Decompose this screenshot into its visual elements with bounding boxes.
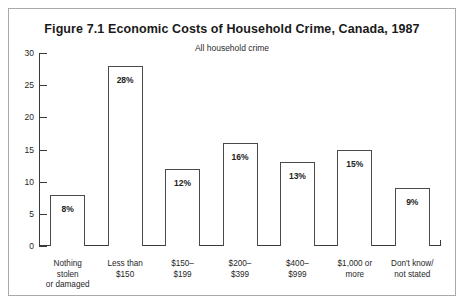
y-axis-tick-mark (39, 85, 47, 86)
y-axis-tick-label: 10 (25, 177, 34, 187)
category-label: $400–$999 (269, 259, 326, 280)
category-label: Don't know/not stated (384, 259, 441, 280)
y-axis-tick-label: 20 (25, 112, 34, 122)
category-label-line: or damaged (39, 280, 96, 291)
y-axis-tick-label: 0 (29, 241, 34, 251)
category-label-line: $200– (211, 259, 268, 270)
category-label: $150–$199 (154, 259, 211, 280)
y-axis-tick-label: 5 (29, 209, 34, 219)
chart-title: Figure 7.1 Economic Costs of Household C… (9, 22, 455, 36)
category-label-line: Less than (96, 259, 153, 270)
category-label: $200–$399 (211, 259, 268, 280)
bar-value-label: 28% (109, 75, 142, 85)
y-axis-tick-mark (39, 150, 47, 151)
category-label-line: $1,000 or (326, 259, 383, 270)
category-label-line: $399 (211, 270, 268, 281)
y-axis-tick-label: 30 (25, 48, 34, 58)
y-axis-tick-label: 15 (25, 145, 34, 155)
category-label-line: $400– (269, 259, 326, 270)
category-label-line: $199 (154, 270, 211, 281)
bar[interactable]: 16% (223, 143, 258, 246)
category-label-line: $150 (96, 270, 153, 281)
figure-frame: Figure 7.1 Economic Costs of Household C… (8, 8, 456, 296)
y-axis-tick-mark (39, 53, 47, 54)
bar[interactable]: 15% (337, 150, 372, 247)
category-label-line: $150– (154, 259, 211, 270)
bar-value-label: 12% (166, 178, 199, 188)
bar-value-label: 9% (396, 197, 429, 207)
bar[interactable]: 9% (395, 188, 430, 246)
bar-value-label: 13% (281, 171, 314, 181)
chart-subtitle: All household crime (9, 43, 455, 53)
category-label-line: stolen (39, 270, 96, 281)
bar[interactable]: 8% (50, 195, 85, 246)
bar-value-label: 15% (338, 159, 371, 169)
bar-value-label: 8% (51, 204, 84, 214)
y-axis-tick-mark (39, 214, 47, 215)
category-label: $1,000 ormore (326, 259, 383, 280)
category-label-line: not stated (384, 270, 441, 281)
category-label-line: Nothing (39, 259, 96, 270)
y-axis-tick-mark (39, 246, 47, 247)
category-label-line: $999 (269, 270, 326, 281)
bar[interactable]: 12% (165, 169, 200, 246)
y-axis-tick-label: 25 (25, 80, 34, 90)
category-label-line: more (326, 270, 383, 281)
y-axis-tick-mark (39, 117, 47, 118)
x-axis-end-tick (440, 240, 441, 246)
y-axis-tick-mark (39, 182, 47, 183)
bar-value-label: 16% (224, 152, 257, 162)
category-label: Less than$150 (96, 259, 153, 280)
category-label-line: Don't know/ (384, 259, 441, 270)
bar[interactable]: 13% (280, 162, 315, 246)
bar[interactable]: 28% (108, 66, 143, 246)
plot-area: 051015202530 8%28%12%16%13%15%9% (39, 53, 441, 246)
category-label: Nothingstolenor damaged (39, 259, 96, 291)
